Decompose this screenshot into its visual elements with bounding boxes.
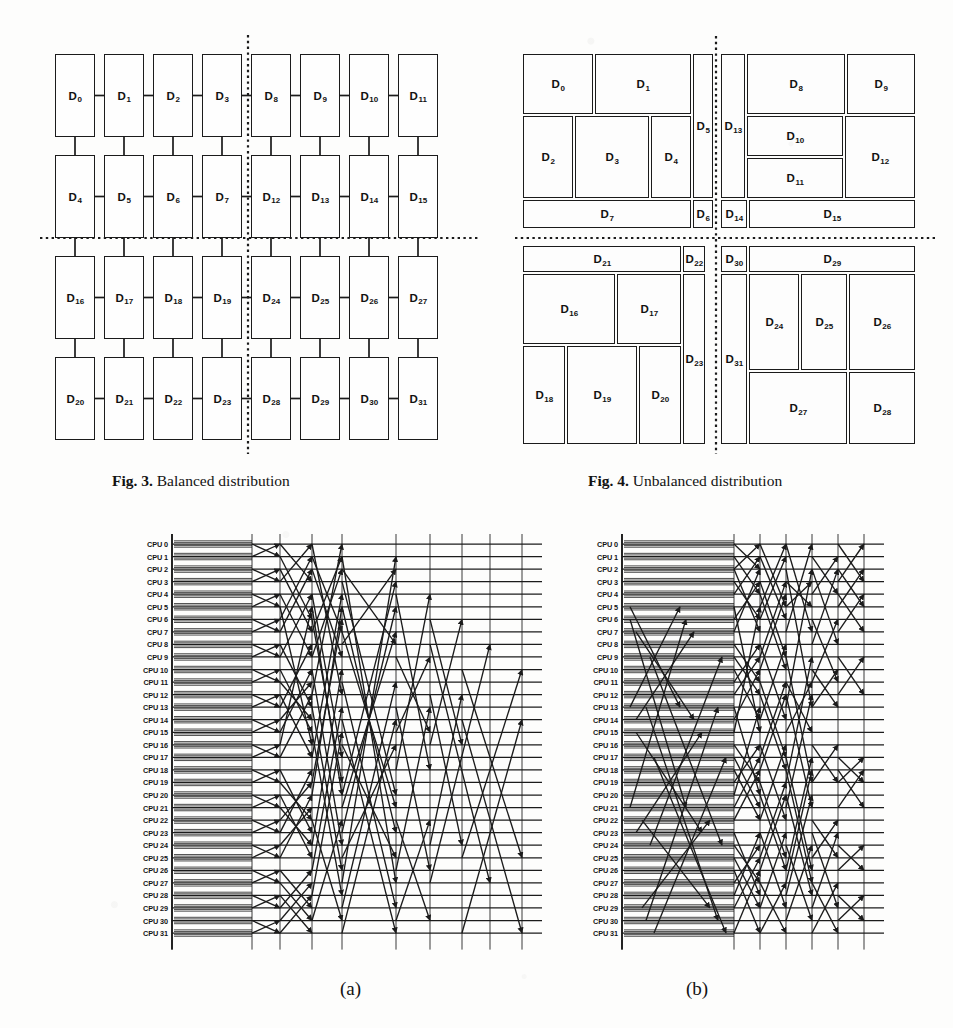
domain-label-D14: D14: [725, 208, 742, 220]
domain-label-D6: D6: [697, 208, 710, 220]
domain-label-D22: D22: [164, 393, 181, 405]
domain-label-D21: D21: [593, 253, 610, 265]
cpu-row-label-30: CPU 30: [128, 917, 168, 926]
domain-box-D3: D3: [202, 54, 242, 137]
figure-3-caption-text: Balanced distribution: [153, 472, 290, 489]
domain-label-D29: D29: [311, 393, 328, 405]
domain-box-D20: D20: [55, 357, 95, 440]
domain-box-D17: D17: [104, 256, 144, 339]
domain-box-D27: D27: [749, 372, 847, 444]
cpu-row-label-26: CPU 26: [128, 866, 168, 875]
domain-box-D12: D12: [845, 116, 915, 198]
cpu-row-label-4: CPU 4: [128, 590, 168, 599]
domain-label-D19: D19: [213, 292, 230, 304]
domain-label-D0: D0: [552, 78, 565, 90]
domain-box-D31: D31: [721, 274, 747, 444]
figure-3-balanced-distribution: D0D1D2D3D8D9D10D11D4D5D6D7D12D13D14D15D1…: [40, 30, 490, 455]
domain-label-D4: D4: [69, 191, 82, 203]
cpu-row-label-2: CPU 2: [578, 565, 618, 574]
cpu-row-label-14: CPU 14: [578, 716, 618, 725]
cpu-row-label-9: CPU 9: [578, 653, 618, 662]
domain-box-D26: D26: [349, 256, 389, 339]
cpu-row-label-5: CPU 5: [578, 603, 618, 612]
domain-label-D19: D19: [593, 389, 610, 401]
domain-label-D0: D0: [69, 90, 82, 102]
cpu-row-label-7: CPU 7: [128, 628, 168, 637]
domain-box-D22: D22: [153, 357, 193, 440]
cpu-row-label-4: CPU 4: [578, 590, 618, 599]
panel-a-sublabel: (a): [340, 978, 361, 1000]
cpu-row-label-29: CPU 29: [578, 904, 618, 913]
domain-label-D4: D4: [665, 151, 678, 163]
domain-label-D23: D23: [685, 353, 702, 365]
domain-label-D2: D2: [542, 151, 555, 163]
cpu-row-label-9: CPU 9: [128, 653, 168, 662]
domain-box-D6: D6: [153, 155, 193, 238]
domain-label-D5: D5: [118, 191, 131, 203]
domain-label-D10: D10: [360, 90, 377, 102]
cpu-row-label-28: CPU 28: [578, 891, 618, 900]
cpu-row-label-20: CPU 20: [128, 791, 168, 800]
domain-box-D0: D0: [523, 54, 593, 114]
domain-box-D13: D13: [721, 54, 745, 198]
domain-box-D17: D17: [617, 274, 681, 344]
domain-label-D24: D24: [765, 316, 782, 328]
domain-label-D30: D30: [725, 253, 742, 265]
domain-box-D2: D2: [153, 54, 193, 137]
domain-box-D28: D28: [251, 357, 291, 440]
domain-box-D11: D11: [747, 158, 843, 198]
domain-label-D12: D12: [871, 151, 888, 163]
cpu-row-label-18: CPU 18: [128, 766, 168, 775]
cpu-row-label-3: CPU 3: [128, 578, 168, 587]
cpu-row-label-23: CPU 23: [128, 829, 168, 838]
domain-box-D28: D28: [849, 372, 915, 444]
domain-box-D6: D6: [693, 200, 713, 228]
cpu-row-label-22: CPU 22: [128, 816, 168, 825]
domain-label-D3: D3: [216, 90, 229, 102]
cpu-row-label-6: CPU 6: [128, 615, 168, 624]
cpu-row-label-27: CPU 27: [128, 879, 168, 888]
figure-4-caption: Fig. 4. Unbalanced distribution: [588, 472, 782, 490]
domain-label-D30: D30: [360, 393, 377, 405]
figure-4-caption-number: Fig. 4.: [588, 472, 629, 489]
domain-box-D25: D25: [801, 274, 847, 370]
cpu-row-label-17: CPU 17: [578, 753, 618, 762]
cpu-row-label-19: CPU 19: [578, 778, 618, 787]
domain-label-D14: D14: [360, 191, 377, 203]
cpu-row-label-17: CPU 17: [128, 753, 168, 762]
domain-label-D11: D11: [787, 172, 804, 184]
domain-label-D10: D10: [786, 130, 803, 142]
domain-box-D24: D24: [251, 256, 291, 339]
domain-label-D17: D17: [115, 292, 132, 304]
domain-box-D3: D3: [575, 116, 649, 198]
figure-3-caption: Fig. 3. Balanced distribution: [112, 472, 290, 490]
domain-box-D19: D19: [567, 346, 637, 444]
cpu-row-label-16: CPU 16: [128, 741, 168, 750]
cpu-row-label-26: CPU 26: [578, 866, 618, 875]
domain-box-D24: D24: [749, 274, 799, 370]
domain-box-D23: D23: [683, 274, 705, 444]
domain-label-D7: D7: [216, 191, 229, 203]
domain-label-D25: D25: [815, 316, 832, 328]
domain-box-D16: D16: [55, 256, 95, 339]
domain-label-D6: D6: [167, 191, 180, 203]
cpu-row-label-24: CPU 24: [128, 841, 168, 850]
cpu-row-label-31: CPU 31: [578, 929, 618, 938]
domain-label-D18: D18: [164, 292, 181, 304]
domain-box-D15: D15: [749, 200, 915, 228]
domain-box-D1: D1: [104, 54, 144, 137]
domain-label-D11: D11: [410, 90, 427, 102]
domain-label-D1: D1: [637, 78, 650, 90]
domain-label-D28: D28: [262, 393, 279, 405]
domain-label-D28: D28: [873, 402, 890, 414]
cpu-row-label-13: CPU 13: [578, 703, 618, 712]
cpu-row-label-2: CPU 2: [128, 565, 168, 574]
domain-box-D9: D9: [847, 54, 915, 114]
domain-label-D7: D7: [601, 208, 614, 220]
cpu-row-label-3: CPU 3: [578, 578, 618, 587]
domain-label-D2: D2: [167, 90, 180, 102]
cpu-row-label-12: CPU 12: [128, 691, 168, 700]
domain-label-D13: D13: [724, 120, 741, 132]
cpu-row-label-18: CPU 18: [578, 766, 618, 775]
cpu-row-label-27: CPU 27: [578, 879, 618, 888]
